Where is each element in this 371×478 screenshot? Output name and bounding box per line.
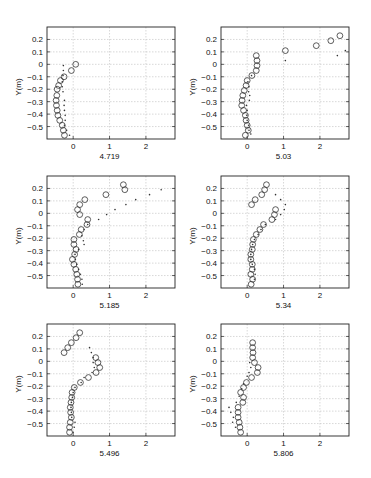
dot-marker <box>80 382 82 384</box>
dot-marker <box>250 367 252 369</box>
dot-marker <box>71 417 73 419</box>
dot-marker <box>62 91 64 93</box>
dot-marker <box>230 412 232 414</box>
y-tick-label: −0.5 <box>27 272 43 281</box>
y-tick-label: 0.1 <box>206 345 218 354</box>
dot-marker <box>135 199 137 201</box>
dot-marker <box>106 214 108 216</box>
figure-background <box>0 0 371 478</box>
dot-marker <box>81 283 83 285</box>
x-tick-label: 1 <box>107 291 112 300</box>
dot-marker <box>74 254 76 256</box>
y-tick-label: 0 <box>39 357 44 366</box>
x-tick-label: 0 <box>71 142 76 151</box>
y-tick-label: 0.2 <box>32 35 44 44</box>
dot-marker <box>249 100 251 102</box>
x-tick-label: 1 <box>281 142 286 151</box>
x-tick-label: 1 <box>281 291 286 300</box>
dot-marker <box>87 224 89 226</box>
x-axis-label: 5.03 <box>276 152 292 161</box>
dot-marker <box>81 235 83 237</box>
dot-marker <box>98 219 100 221</box>
y-tick-label: 0 <box>213 357 218 366</box>
x-tick-label: 1 <box>107 439 112 448</box>
dot-marker <box>228 407 230 409</box>
x-tick-label: 0 <box>71 439 76 448</box>
dot-marker <box>250 259 252 261</box>
dot-marker <box>235 402 237 404</box>
dot-marker <box>74 422 76 424</box>
y-axis-label: Y(m) <box>188 227 197 245</box>
dot-marker <box>72 392 74 394</box>
dot-marker <box>160 189 162 191</box>
dot-marker <box>78 249 80 251</box>
y-tick-label: −0.3 <box>201 98 217 107</box>
y-tick-label: −0.5 <box>201 272 217 281</box>
dot-marker <box>70 407 72 409</box>
y-tick-label: −0.1 <box>27 73 43 82</box>
dot-marker <box>252 244 254 246</box>
dot-marker <box>254 274 256 276</box>
dot-marker <box>247 81 249 83</box>
dot-marker <box>63 105 65 107</box>
y-tick-label: −0.5 <box>27 123 43 132</box>
dot-marker <box>73 426 75 428</box>
y-tick-label: −0.4 <box>201 259 217 268</box>
dot-marker <box>280 199 282 201</box>
x-tick-label: 1 <box>107 142 112 151</box>
dot-marker <box>246 375 248 377</box>
y-tick-label: −0.4 <box>201 110 217 119</box>
y-tick-label: −0.1 <box>201 222 217 231</box>
dot-marker <box>71 412 73 414</box>
y-tick-label: −0.5 <box>27 420 43 429</box>
dot-marker <box>76 264 78 266</box>
dot-marker <box>125 204 127 206</box>
x-axis-label: 5.806 <box>274 449 295 458</box>
dot-marker <box>71 402 73 404</box>
x-tick-label: 2 <box>318 291 323 300</box>
y-axis-label: Y(m) <box>14 375 23 393</box>
x-tick-label: 0 <box>245 439 250 448</box>
y-tick-label: −0.3 <box>27 395 43 404</box>
y-tick-label: −0.3 <box>201 247 217 256</box>
y-tick-label: 0.1 <box>32 197 44 206</box>
dot-marker <box>275 219 277 221</box>
dot-marker <box>64 100 66 102</box>
y-tick-label: 0 <box>39 60 44 69</box>
dot-marker <box>246 115 248 117</box>
dot-marker <box>248 129 250 131</box>
dot-marker <box>62 75 64 77</box>
dot-marker <box>233 417 235 419</box>
dot-marker <box>93 367 95 369</box>
dot-marker <box>280 214 282 216</box>
y-tick-label: −0.2 <box>27 234 43 243</box>
y-tick-label: −0.5 <box>201 123 217 132</box>
y-tick-label: −0.2 <box>201 85 217 94</box>
y-tick-label: −0.4 <box>27 407 43 416</box>
dot-marker <box>232 422 234 424</box>
dot-marker <box>89 347 91 349</box>
dot-marker <box>337 55 339 57</box>
dot-marker <box>248 86 250 88</box>
x-tick-label: 0 <box>245 291 250 300</box>
y-tick-label: 0.1 <box>32 48 44 57</box>
dot-marker <box>75 259 77 261</box>
dot-marker <box>92 362 94 364</box>
dot-marker <box>246 105 248 107</box>
dot-marker <box>241 388 243 390</box>
x-tick-label: 1 <box>281 439 286 448</box>
y-tick-label: −0.2 <box>27 382 43 391</box>
y-tick-label: −0.4 <box>201 407 217 416</box>
dot-marker <box>83 229 85 231</box>
dot-marker <box>285 204 287 206</box>
y-tick-label: −0.3 <box>27 98 43 107</box>
dot-marker <box>83 244 85 246</box>
y-tick-label: −0.3 <box>27 247 43 256</box>
dot-marker <box>83 240 85 242</box>
y-tick-label: 0 <box>213 60 218 69</box>
x-tick-label: 2 <box>144 439 149 448</box>
dot-marker <box>64 110 66 112</box>
y-tick-label: −0.4 <box>27 259 43 268</box>
dot-marker <box>61 81 63 83</box>
dot-marker <box>78 269 80 271</box>
